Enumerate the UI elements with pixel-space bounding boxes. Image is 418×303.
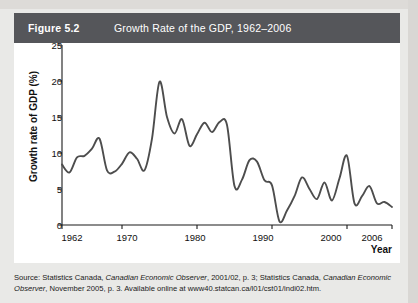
gdp-growth-line: [62, 81, 392, 222]
gdp-growth-line-chart: [14, 43, 400, 263]
x-tick-label-1970: 1970: [107, 232, 147, 243]
x-tick-label-1962: 1962: [52, 232, 92, 243]
source-suffix: .: [319, 284, 321, 293]
page-edge-top: [0, 0, 418, 9]
x-tick-label-2000: 2000: [311, 232, 351, 243]
y-tick-label-25: 25: [40, 40, 62, 51]
figure-title: Growth Rate of the GDP, 1962–2006: [114, 22, 291, 34]
figure-header: Figure 5.2 Growth Rate of the GDP, 1962–…: [14, 13, 400, 43]
source-prefix: Source: Statistics Canada,: [14, 273, 106, 282]
figure-panel: Figure 5.2 Growth Rate of the GDP, 1962–…: [14, 13, 400, 263]
y-tick-label-0: 0: [40, 220, 62, 231]
x-tick-label-1990: 1990: [243, 232, 283, 243]
y-axis-title: Growth rate of GDP (%): [28, 52, 39, 202]
source-url: www40.statcan.ca/l01/cst01/indi02.htm: [188, 284, 319, 293]
source-mid-2: , November 2005, p. 3. Available online …: [45, 284, 188, 293]
chart-axes: [58, 45, 392, 229]
x-axis-title: Year: [371, 244, 392, 255]
page-root: Figure 5.2 Growth Rate of the GDP, 1962–…: [0, 0, 418, 303]
y-tick-label-10: 10: [40, 148, 62, 159]
source-publication-1: Canadian Economic Observer: [106, 273, 207, 282]
source-note: Source: Statistics Canada, Canadian Econ…: [14, 272, 406, 294]
source-mid-1: , 2001/02, p. 3; Statistics Canada,: [207, 273, 323, 282]
y-tick-label-15: 15: [40, 112, 62, 123]
figure-number-label: Figure 5.2: [28, 22, 114, 34]
x-tick-label-2006: 2006: [352, 232, 392, 243]
chart-plot-area: Growth rate of GDP (%) Year 25 20 15 10 …: [14, 43, 400, 263]
page-edge-right: [408, 0, 418, 303]
y-tick-label-20: 20: [40, 76, 62, 87]
y-tick-label-5: 5: [40, 184, 62, 195]
x-tick-label-1980: 1980: [175, 232, 215, 243]
